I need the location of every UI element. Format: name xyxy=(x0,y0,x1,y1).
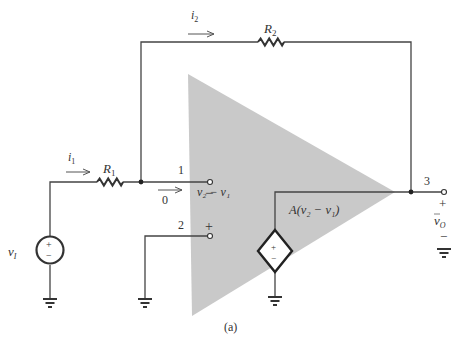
label-out-plus: + xyxy=(439,196,446,211)
label-vcvs: A(v₂ − v₁) xyxy=(288,203,339,217)
label-vO: vO xyxy=(434,213,446,230)
ground-icon xyxy=(43,299,57,307)
arrow-i1 xyxy=(66,169,90,175)
label-R1: R1 xyxy=(102,161,115,178)
ground-icon xyxy=(437,249,451,257)
dep-plus: + xyxy=(271,242,276,252)
label-node3: 3 xyxy=(424,174,430,188)
ground-icon xyxy=(138,299,152,307)
figure-caption: (a) xyxy=(224,320,237,334)
terminal-output xyxy=(442,190,447,195)
label-i1: i1 xyxy=(68,150,75,166)
junction-dot xyxy=(139,180,144,185)
ground-icon xyxy=(268,297,282,305)
terminal-node2 xyxy=(208,234,213,239)
label-node1: 1 xyxy=(178,163,184,177)
arrow-i2 xyxy=(188,31,214,37)
junction-output xyxy=(409,190,414,195)
dep-minus: − xyxy=(271,253,276,263)
label-R2: R2 xyxy=(263,21,276,38)
label-zero-current: 0 xyxy=(162,193,168,207)
input-wire xyxy=(50,182,210,298)
resistor-R1 xyxy=(97,179,123,186)
label-node2: 2 xyxy=(178,218,184,232)
diff-voltage-text: v₂ − v₁ xyxy=(197,185,230,199)
label-plus-terminal: + xyxy=(205,219,213,234)
label-i2: i2 xyxy=(191,8,198,24)
label-out-minus: − xyxy=(440,229,447,244)
label-vI: vI xyxy=(8,244,17,261)
resistor-R2 xyxy=(258,39,284,46)
source-plus: + xyxy=(46,239,52,250)
inverting-opamp-circuit: R2 i2 R1 i1 1 − 0 v₂ − v₁ v₂ − v₁ 2 + + … xyxy=(0,0,476,353)
source-minus: − xyxy=(46,250,52,261)
terminal-node1 xyxy=(208,180,213,185)
